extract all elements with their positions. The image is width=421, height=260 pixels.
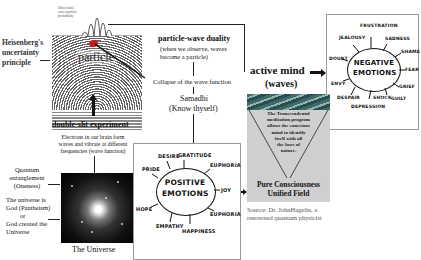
- collapse-label: Collapse of the wave function: [153, 78, 231, 85]
- neg-sadness: SADNESS: [385, 36, 410, 41]
- neg-frustration: FRUSTRATION: [360, 23, 398, 28]
- electrons-label: Electrons in our brain form waves and vi…: [48, 134, 138, 155]
- tm-text: The Transcendental meditation program al…: [253, 111, 324, 154]
- pos-euphoria-top: EUPHORIA: [210, 162, 241, 168]
- pos-hope: HOPE: [136, 206, 152, 212]
- duality-title: particle-wave duality: [158, 34, 230, 43]
- tm-photo-strip: [247, 94, 330, 110]
- particle-to-collapse-line: [95, 42, 155, 82]
- double-slit-label: double-slit experiment: [52, 120, 129, 129]
- neg-despair: DESPAIR: [337, 95, 360, 100]
- connector-2: [193, 87, 194, 94]
- neg-grief: GRIEF: [399, 84, 415, 89]
- neg-depression: DEPRESSION: [351, 104, 385, 109]
- pantheism-label: The universe is God (Pantheism) or God c…: [6, 196, 50, 236]
- pos-empathy: EMPATHY: [156, 223, 184, 229]
- slit-arrow-head: [89, 94, 97, 100]
- top-connector-down: [244, 24, 245, 72]
- pos-happiness: HAPPINESS: [182, 228, 216, 234]
- pantheism-arrow: [48, 219, 60, 220]
- positive-emotions-box: POSITIVE EMOTIONS DESIRE GRATITUDE PRIDE…: [133, 143, 241, 260]
- entanglement-arrow: [48, 184, 60, 185]
- active-mind-label: active mind: [250, 64, 305, 76]
- samadhi-label: Samadhi: [180, 94, 208, 103]
- source-credit: Source: Dr. JohnHagelin, a renowned quan…: [247, 206, 322, 222]
- electrons-arrow: [94, 156, 95, 173]
- waves-label: (waves): [265, 78, 297, 89]
- heisenberg-arrow: [40, 60, 50, 61]
- entanglement-label: Quantum entanglement (Oneness): [4, 166, 50, 190]
- neg-envy: ENVY: [331, 81, 345, 86]
- pos-pride: PRIDE: [142, 166, 160, 172]
- universe-label: The Universe: [72, 245, 115, 254]
- connector-1: [193, 62, 194, 76]
- neg-guilt: GUILT: [391, 96, 406, 101]
- neg-fear: FEAR: [405, 67, 419, 72]
- pos-to-tm-arrow-head: [243, 189, 247, 195]
- pos-euphoria-bottom: EUPHORIA: [210, 211, 241, 217]
- pos-gratitude: GRATITUDE: [178, 152, 212, 158]
- connector-3: [193, 114, 194, 143]
- top-connector: [108, 24, 245, 25]
- negative-emotions-box: NEGATIVE EMOTIONS FRUSTRATION JEALOUSY S…: [326, 14, 419, 130]
- universe-galaxy-image: [61, 173, 133, 243]
- neg-doubt: DOUBT: [329, 56, 348, 61]
- neg-shock: SHOCK: [373, 95, 392, 100]
- pure-consciousness-label: Pure Consciousness Unified Field: [247, 180, 330, 198]
- negative-spokes: [327, 15, 418, 129]
- neg-shame: SHAME: [401, 49, 420, 54]
- graph-caption: Observable wave/particle probability: [58, 6, 88, 18]
- pos-joy: JOY: [221, 187, 231, 193]
- heisenberg-label: Heisenberg's uncertainty principle: [2, 38, 43, 68]
- know-thyself-label: (Know thyself): [169, 104, 218, 113]
- neg-jealousy: JEALOUSY: [339, 35, 366, 40]
- duality-subtitle: (when we observe, waves become a particl…: [160, 45, 227, 61]
- pos-desire: DESIRE: [158, 153, 180, 159]
